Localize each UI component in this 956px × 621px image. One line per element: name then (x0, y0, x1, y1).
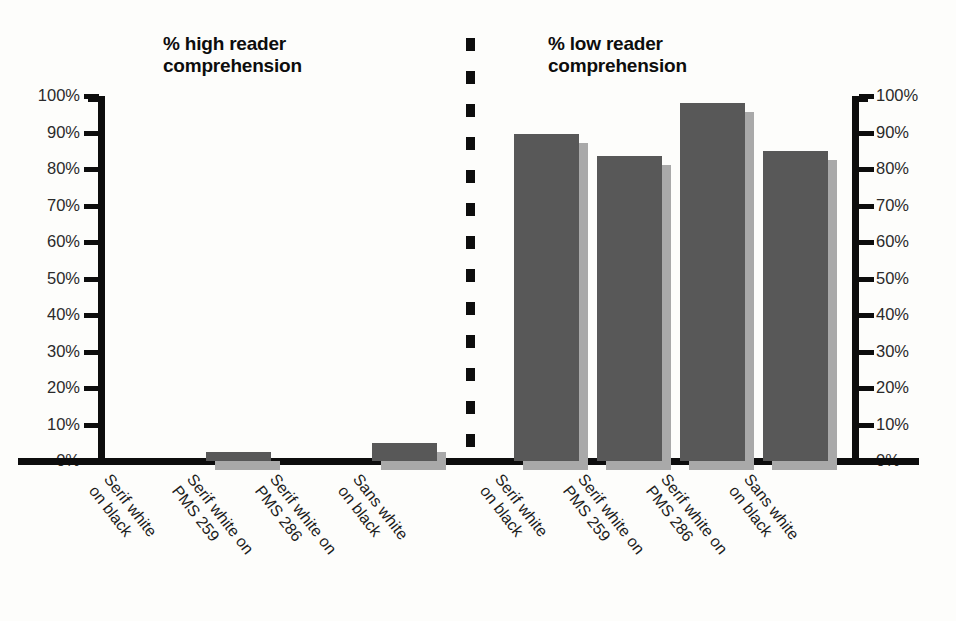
y-tick-left-100 (84, 94, 99, 99)
y-tick-label-left-20: 20% (14, 379, 80, 395)
y-tick-label-right-10: 10% (876, 416, 942, 432)
divider-dash (466, 302, 475, 315)
divider-dash (466, 170, 475, 183)
x-axis-category-label: Sans white on black (334, 470, 412, 555)
y-tick-right-30 (859, 350, 874, 355)
y-tick-label-right-70: 70% (876, 197, 942, 213)
x-axis-category-label: Serif white on PMS 286 (251, 470, 341, 570)
bar-face (206, 452, 271, 461)
bar-shadow (215, 461, 280, 470)
y-tick-label-right-40: 40% (876, 306, 942, 322)
panel-title-high-comprehension: % high reader comprehension (163, 33, 302, 77)
divider-dash (466, 137, 475, 150)
y-tick-left-10 (84, 423, 99, 428)
y-tick-right-100 (859, 94, 874, 99)
chart-figure: % high reader comprehension % low reader… (0, 0, 956, 621)
bar-high-1[interactable] (206, 452, 271, 461)
bar-slot (680, 96, 745, 461)
y-tick-label-left-40: 40% (14, 306, 80, 322)
x-axis-category-label: Serif white on black (85, 470, 161, 552)
x-axis-category-label: Serif white on black (476, 470, 552, 552)
bar-slot (514, 96, 579, 461)
y-tick-left-80 (84, 167, 99, 172)
divider-dash (466, 335, 475, 348)
y-tick-label-right-80: 80% (876, 160, 942, 176)
bar-face (680, 103, 745, 461)
bar-low-0[interactable] (514, 134, 579, 461)
x-axis-category-label: Sans white on black (725, 470, 803, 555)
y-tick-label-right-90: 90% (876, 124, 942, 140)
y-tick-label-left-50: 50% (14, 270, 80, 286)
divider-dash (466, 203, 475, 216)
bar-face (763, 151, 828, 461)
y-tick-left-50 (84, 277, 99, 282)
y-tick-left-40 (84, 313, 99, 318)
y-tick-left-60 (84, 240, 99, 245)
y-tick-label-left-30: 30% (14, 343, 80, 359)
bar-low-2[interactable] (680, 103, 745, 461)
bar-face (597, 156, 662, 461)
y-tick-right-80 (859, 167, 874, 172)
bar-slot (289, 96, 354, 461)
y-tick-right-20 (859, 386, 874, 391)
divider-dash (466, 269, 475, 282)
panel-title-low-comprehension: % low reader comprehension (548, 33, 687, 77)
y-tick-right-70 (859, 204, 874, 209)
y-tick-right-10 (859, 423, 874, 428)
y-tick-left-70 (84, 204, 99, 209)
bar-face (372, 443, 437, 461)
bar-low-3[interactable] (763, 151, 828, 461)
bar-slot (372, 96, 437, 461)
y-axis-right-line (852, 96, 859, 463)
divider-dash (466, 71, 475, 84)
y-tick-right-60 (859, 240, 874, 245)
bar-low-1[interactable] (597, 156, 662, 461)
y-tick-right-90 (859, 131, 874, 136)
bar-slot (763, 96, 828, 461)
y-tick-label-right-60: 60% (876, 233, 942, 249)
y-tick-label-right-100: 100% (876, 87, 942, 103)
y-tick-left-90 (84, 131, 99, 136)
x-axis-category-label: Serif white on PMS 259 (559, 470, 649, 570)
y-tick-right-40 (859, 313, 874, 318)
bar-slot (206, 96, 271, 461)
x-axis-category-label: Serif white on PMS 259 (168, 470, 258, 570)
y-tick-label-left-10: 10% (14, 416, 80, 432)
divider-dash (466, 434, 475, 447)
divider-dash (466, 236, 475, 249)
y-tick-right-50 (859, 277, 874, 282)
y-tick-label-right-50: 50% (876, 270, 942, 286)
y-tick-label-left-90: 90% (14, 124, 80, 140)
bar-slot (123, 96, 188, 461)
divider-dash (466, 104, 475, 117)
y-axis-left-line (98, 96, 105, 463)
y-tick-label-left-80: 80% (14, 160, 80, 176)
plot-area-high-comprehension (105, 96, 460, 461)
bar-slot (597, 96, 662, 461)
y-tick-label-left-60: 60% (14, 233, 80, 249)
panel-divider-dashed-line (466, 38, 475, 462)
divider-dash (466, 38, 475, 51)
y-tick-left-30 (84, 350, 99, 355)
bar-high-3[interactable] (372, 443, 437, 461)
divider-dash (466, 401, 475, 414)
divider-dash (466, 368, 475, 381)
x-axis-category-label: Serif white on PMS 286 (642, 470, 732, 570)
y-tick-label-left-70: 70% (14, 197, 80, 213)
y-tick-label-right-20: 20% (876, 379, 942, 395)
plot-area-low-comprehension (496, 96, 851, 461)
y-tick-label-left-100: 100% (14, 87, 80, 103)
bar-face (514, 134, 579, 461)
y-tick-label-right-30: 30% (876, 343, 942, 359)
y-tick-left-20 (84, 386, 99, 391)
